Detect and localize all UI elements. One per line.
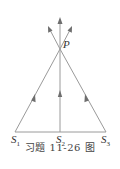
arrow-mid-center-icon (58, 90, 62, 97)
arrow-mid-right-icon (84, 94, 88, 102)
arrow-top-center-icon (58, 17, 63, 24)
figure-caption: 习题 11-26 图 (0, 139, 120, 154)
point-p-text: P (63, 38, 70, 50)
ray-s3 (60, 49, 106, 132)
arrow-top-left-icon (48, 26, 53, 33)
arrow-top-right-icon (68, 26, 73, 33)
ray-s1 (15, 49, 60, 132)
point-p-label: P (63, 39, 70, 50)
